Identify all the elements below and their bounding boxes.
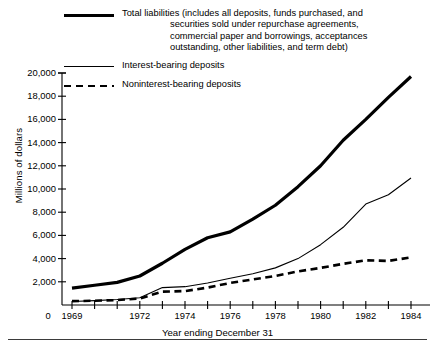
footer-divider [8,339,427,340]
series-line [72,178,411,302]
data-lines [72,76,411,301]
series-line [72,76,411,288]
axes [58,73,430,309]
figure: Total liabilities (includes all deposits… [0,0,435,347]
plot-area [0,0,435,347]
x-axis-title: Year ending December 31 [0,327,435,338]
